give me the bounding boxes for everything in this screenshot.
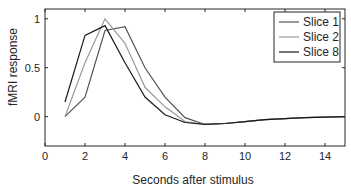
x-tick-label: 4 [122,150,128,162]
x-tick-label: 0 [42,150,48,162]
x-tick-label: 2 [82,150,88,162]
legend: Slice 1Slice 2Slice 8 [274,12,340,62]
y-tick-label: 0.5 [25,62,40,74]
x-tick-label: 14 [319,150,331,162]
line-chart: 0246810121400.51 Seconds after stimulus … [0,0,351,194]
x-tick-label: 6 [162,150,168,162]
y-tick-label: 1 [34,13,40,25]
y-tick-label: 0 [34,111,40,123]
legend-label: Slice 8 [303,45,339,59]
x-axis-label: Seconds after stimulus [132,173,253,187]
legend-label: Slice 2 [303,30,339,44]
y-axis-label: fMRI response [6,28,20,106]
x-tick-label: 12 [279,150,291,162]
x-tick-label: 10 [239,150,251,162]
x-tick-label: 8 [202,150,208,162]
legend-label: Slice 1 [303,15,339,29]
